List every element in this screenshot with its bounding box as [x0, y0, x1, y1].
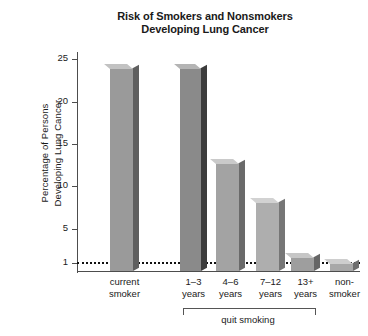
bar-side-face — [201, 65, 207, 271]
chart-container: Risk of Smokers and Nonsmokers Developin… — [0, 0, 368, 336]
y-tick-15: 15 — [72, 144, 77, 145]
y-tick-label-5: 5 — [63, 222, 68, 233]
chart-title-line-1: Risk of Smokers and Nonsmokers — [60, 10, 350, 23]
bar-side-face — [353, 259, 359, 271]
bar-top-face — [210, 159, 239, 164]
y-axis-title-line-2: Developing Lung Cancer — [51, 58, 64, 248]
x-axis-label-line: smoker — [310, 288, 368, 300]
bar-top-face — [104, 64, 133, 69]
y-tick-20: 20 — [72, 102, 77, 103]
y-tick-label-10: 10 — [57, 179, 68, 190]
chart-title: Risk of Smokers and Nonsmokers Developin… — [60, 10, 350, 36]
y-tick-label-15: 15 — [57, 137, 68, 148]
y-tick-label-25: 25 — [57, 52, 68, 63]
quit-smoking-bracket-label: quit smoking — [183, 314, 314, 325]
bar — [110, 68, 133, 271]
y-tick-label-1: 1 — [63, 256, 68, 267]
bar-side-face — [133, 65, 139, 271]
bar-top-face — [174, 64, 201, 69]
x-axis-label-5: non-smoker — [310, 276, 368, 300]
bar-side-face — [239, 160, 245, 271]
y-axis-line — [77, 52, 78, 273]
bar-side-face — [314, 254, 320, 271]
y-axis-title: Percentage of Persons Developing Lung Ca… — [38, 58, 64, 248]
y-tick-5: 5 — [72, 229, 77, 230]
plot-area: 1510152025 — [77, 52, 360, 272]
bar-front-face — [110, 68, 133, 271]
bar — [256, 202, 279, 271]
bar-front-face — [180, 68, 201, 271]
x-axis-label-line: smoker — [90, 288, 160, 300]
x-axis-label-0: currentsmoker — [90, 276, 160, 300]
bar-front-face — [216, 163, 239, 271]
y-tick-label-20: 20 — [57, 95, 68, 106]
y-tick-10: 10 — [72, 186, 77, 187]
bar — [330, 263, 353, 271]
bar — [216, 163, 239, 271]
x-axis-line — [77, 271, 360, 272]
y-tick-25: 25 — [72, 59, 77, 60]
bar-front-face — [256, 202, 279, 271]
bar-top-face — [285, 253, 314, 258]
bar-top-face — [324, 259, 353, 264]
bar-front-face — [291, 257, 314, 271]
x-axis-label-line: current — [90, 276, 160, 288]
chart-title-line-2: Developing Lung Cancer — [60, 23, 350, 36]
x-axis-label-line: non- — [310, 276, 368, 288]
bar — [291, 257, 314, 271]
y-axis-title-line-1: Percentage of Persons — [38, 58, 51, 248]
bar — [180, 68, 201, 271]
bar-side-face — [279, 199, 285, 271]
bar-top-face — [250, 198, 279, 203]
